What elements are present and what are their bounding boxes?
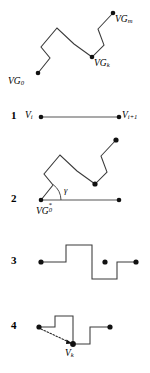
vertex-row3-left [38,259,43,264]
label-vg0-base: VG [8,76,21,86]
label-vgm-sub: m [128,17,133,24]
vertex-vg0 [36,71,41,76]
label-vgm: VGm [115,15,132,25]
label-vg0-star-base: VG [36,206,49,216]
label-vgm-base: VG [115,14,128,24]
panel-row-2 [39,137,122,202]
vertex-vi1 [117,115,122,120]
label-vk: Vk [65,349,74,359]
label-vg0: VG0 [8,77,24,87]
label-vg0-star-stack: VG*0 [36,204,53,216]
label-vgk: VGk [94,59,110,69]
label-vg0-star-sub: 0 [49,207,52,214]
label-vi1-sub: i+1 [128,113,138,120]
vertex-row4-right [107,324,112,329]
vertex-vi [39,115,44,120]
label-vi1: Vi+1 [122,111,137,121]
vertex-row2-mid [92,181,97,186]
angle-arc-gamma [53,185,61,200]
figure-canvas [0,0,150,373]
row2-polyline [41,140,116,200]
label-gamma: γ [64,186,67,195]
row3-polyline [41,245,136,279]
label-vgk-base: VG [94,58,107,68]
label-vg0-star-affixes: *0 [49,204,54,214]
label-vg0-sub: 0 [21,79,24,86]
label-vi: Vi [25,111,33,121]
row-number-3: 3 [11,255,17,266]
vertex-vg0-star [39,198,44,203]
panel-row-1 [39,115,122,120]
vertex-row3-right [133,259,138,264]
row4-polyline [39,316,110,344]
row-number-1: 1 [11,110,17,121]
row-number-4: 4 [11,320,17,331]
figure-root: VG0 VGk VGm 1 Vi Vi+1 2 γ VG*0 3 4 Vk [0,0,150,373]
label-vgk-sub: k [107,61,110,68]
vertex-vk [70,341,76,347]
row4-dotted-pointer [41,329,69,342]
vertex-row3-mid [102,259,107,264]
vertex-row2-right [117,198,122,203]
label-vg0-star: VG*0 [36,204,53,216]
label-vk-sub: k [71,351,74,358]
vertex-row2-top [113,137,118,142]
row-number-2: 2 [11,193,17,204]
vertex-row4-left [36,324,41,329]
panel-row-4 [36,316,112,347]
label-vi-sub: i [31,113,33,120]
panel-row-3 [38,245,138,279]
